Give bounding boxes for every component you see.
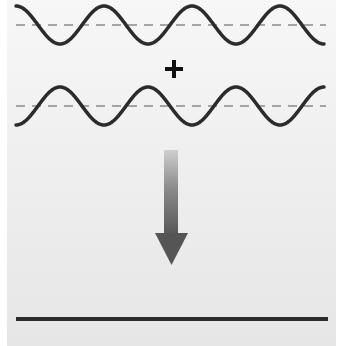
interference-diagram bbox=[0, 0, 340, 346]
arrow-down-icon bbox=[155, 150, 188, 265]
plus-icon bbox=[165, 60, 183, 78]
